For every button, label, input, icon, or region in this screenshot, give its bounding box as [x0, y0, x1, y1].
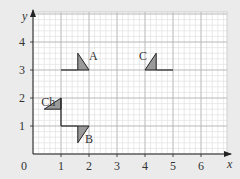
shape-label-a: A: [89, 49, 98, 63]
x-tick-label: 5: [170, 159, 176, 173]
shape-label-b: B: [85, 132, 93, 146]
x-tick-label: 4: [142, 159, 148, 173]
y-axis-label: y: [21, 9, 28, 23]
y-tick-label: 2: [19, 91, 25, 105]
coordinate-grid: 12345612340yxACChB: [0, 0, 240, 179]
x-axis-label: x: [226, 157, 233, 171]
y-tick-label: 1: [19, 119, 25, 133]
y-tick-label: 3: [19, 63, 25, 77]
x-tick-label: 6: [198, 159, 204, 173]
grid-background: [33, 12, 227, 154]
x-tick-label: 3: [114, 159, 120, 173]
shape-label-c: C: [139, 49, 147, 63]
x-tick-label: 2: [86, 159, 92, 173]
shape-label-ch: Ch: [41, 95, 55, 109]
origin-label: 0: [21, 159, 27, 173]
x-tick-label: 1: [58, 159, 64, 173]
diagram: 12345612340yxACChB: [0, 0, 240, 179]
y-tick-label: 4: [19, 35, 25, 49]
